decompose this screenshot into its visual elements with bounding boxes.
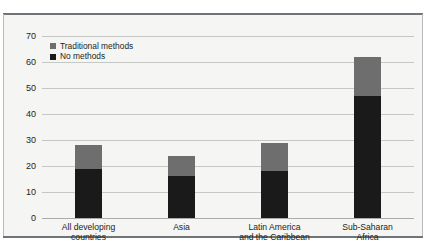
- bar-segment: [354, 96, 381, 218]
- x-axis-category-label: All developing countries: [42, 222, 135, 243]
- chart-figure: 706050403020100All developing countriesA…: [0, 0, 426, 244]
- legend-item-traditional-methods: Traditional methods: [50, 42, 133, 50]
- legend-label-traditional-methods: Traditional methods: [60, 42, 133, 50]
- y-axis-tick-label-0: 0: [31, 214, 36, 223]
- bar-segment: [354, 57, 381, 96]
- bar-segment: [261, 171, 288, 218]
- y-axis-tick-label-10: 10: [26, 188, 36, 197]
- gridline-70: 70: [42, 36, 414, 37]
- y-axis-tick-label-40: 40: [26, 110, 36, 119]
- bar-group: [75, 145, 102, 218]
- legend-item-no-methods: No methods: [50, 52, 133, 60]
- legend-swatch-icon-no-methods: [50, 54, 56, 60]
- chart-legend: Traditional methods No methods: [50, 42, 133, 61]
- y-axis-tick-label-70: 70: [26, 32, 36, 41]
- bar-segment: [168, 156, 195, 177]
- y-axis-tick-label-30: 30: [26, 136, 36, 145]
- x-axis-category-label: Latin America and the Caribbean: [228, 222, 321, 243]
- chart-panel: 706050403020100All developing countriesA…: [4, 15, 422, 236]
- bar-segment: [75, 169, 102, 218]
- x-axis-category-label: Asia: [135, 222, 228, 232]
- plot-area: 706050403020100All developing countriesA…: [42, 36, 414, 218]
- legend-swatch-icon-traditional-methods: [50, 43, 56, 49]
- y-axis-tick-label-50: 50: [26, 84, 36, 93]
- gridline-0: 0: [42, 218, 414, 219]
- legend-label-no-methods: No methods: [60, 52, 105, 60]
- bar-segment: [75, 145, 102, 168]
- y-axis-tick-label-20: 20: [26, 162, 36, 171]
- bar-segment: [168, 176, 195, 218]
- y-axis-tick-label-60: 60: [26, 58, 36, 67]
- bar-segment: [261, 143, 288, 172]
- bar-group: [354, 57, 381, 218]
- bar-group: [261, 143, 288, 218]
- right-border-line: [422, 14, 423, 236]
- bar-group: [168, 156, 195, 218]
- x-axis-category-label: Sub-Saharan Africa: [321, 222, 414, 243]
